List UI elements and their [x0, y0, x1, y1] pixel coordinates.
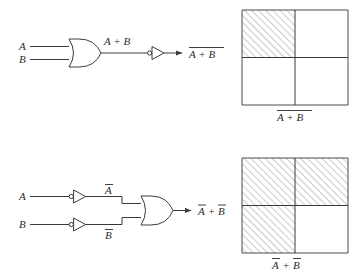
top-caption-text: A + B — [276, 111, 303, 123]
bottom-caption-b: B — [293, 259, 300, 271]
top-output-label: A + B — [188, 48, 224, 61]
bottom-output-a: A — [197, 205, 205, 217]
bottom-not-gate-b — [74, 218, 86, 231]
top-or-gate — [69, 39, 101, 67]
bottom-output-label: A + B — [197, 205, 226, 217]
bottom-input-a-label: A — [18, 190, 26, 202]
bottom-not-gate-a — [74, 190, 86, 203]
bottom-output-b: B — [218, 205, 225, 217]
diagram-bottom: A + B — [242, 158, 348, 271]
bottom-caption-plus: + — [283, 259, 289, 271]
diagram-top: A + B — [242, 10, 348, 123]
bottom-input-b-label: B — [19, 218, 26, 230]
bottom-inverter-b-bubble — [69, 222, 73, 226]
top-input-a-label: A — [18, 40, 26, 52]
top-inverter-bubble — [148, 51, 152, 55]
bottom-wire-not-b — [86, 218, 141, 225]
bottom-quadrant-bottom-left-shading — [242, 206, 295, 254]
bottom-quadrant-top-left-shading — [242, 158, 295, 206]
bottom-or-gate — [141, 196, 173, 225]
top-not-gate — [152, 47, 164, 60]
top-diagram-caption: A + B — [276, 111, 312, 124]
top-output-text: A + B — [188, 48, 215, 60]
top-input-b-label: B — [19, 53, 26, 65]
top-quadrant-top-left-shading — [242, 10, 295, 58]
top-intermediate-label: A + B — [103, 35, 130, 47]
bottom-inverter-a-bubble — [69, 194, 73, 198]
bottom-caption-a: A — [271, 259, 279, 271]
circuit-bottom: A B A B — [18, 184, 226, 241]
bottom-not-b-label: B — [105, 229, 113, 241]
bottom-diagram-caption: A + B — [271, 259, 301, 272]
bottom-not-b-text: B — [105, 229, 112, 241]
bottom-not-a-text: A — [104, 184, 112, 196]
bottom-not-a-label: A — [104, 184, 113, 196]
bottom-wire-not-a — [86, 197, 141, 204]
bottom-output-plus: + — [209, 205, 215, 217]
bottom-quadrant-top-right-shading — [295, 158, 348, 206]
circuit-top: A B A + B A + B — [18, 35, 224, 67]
logic-diagram-figure: A B A + B A + B — [0, 0, 363, 277]
